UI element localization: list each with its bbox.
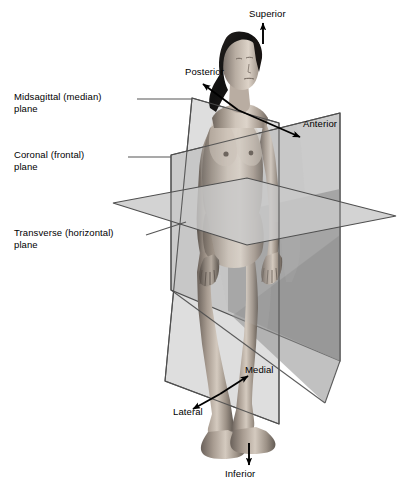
transverse-plane [113, 178, 396, 245]
label-transverse-plane: Transverse (horizontal) plane [14, 227, 144, 250]
anatomical-planes-figure: Midsagittal (median) plane Coronal (fron… [0, 0, 413, 489]
label-superior: Superior [249, 8, 319, 20]
label-midsagittal-plane: Midsagittal (median) plane [14, 91, 138, 114]
label-anterior: Anterior [303, 118, 363, 130]
label-inferior: Inferior [225, 468, 283, 480]
label-medial: Medial [245, 364, 297, 376]
label-coronal-plane: Coronal (frontal) plane [14, 149, 126, 172]
label-lateral: Lateral [173, 406, 225, 418]
label-posterior: Posterior [185, 66, 251, 78]
